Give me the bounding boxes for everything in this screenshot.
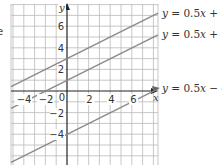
y-tick-neg2: −2 [49,108,64,119]
x-axis-label: x [153,92,159,103]
x-tick-4: 4 [108,94,114,105]
origin-label: 0 [59,92,65,103]
x-tick-2: 2 [86,94,92,105]
legend-eq-1: y = 0.5x + 3 [161,7,222,19]
x-tick-neg2: −2 [39,94,54,105]
y-tick-6: 6 [58,21,64,32]
legend-eq-3: y = 0.5x − 4 [161,82,222,94]
x-tick-neg4: −4 [17,94,32,105]
coordinate-plane-chart: −4 −2 0 2 4 6 6 4 2 −2 −4 y x y = 0.5x +… [0,0,222,165]
grid [11,4,158,165]
x-tick-6: 6 [130,94,136,105]
y-tick-2: 2 [58,64,64,75]
clipped-left-text: e [0,26,3,37]
y-tick-neg4: −4 [49,129,64,140]
x-tick-labels: −4 −2 0 2 4 6 [15,92,138,105]
y-tick-4: 4 [58,43,64,54]
y-axis-label: y [58,2,65,13]
line-y-0.5x-plus-3 [11,13,158,87]
legend-eq-2: y = 0.5x + 1 [161,28,222,40]
